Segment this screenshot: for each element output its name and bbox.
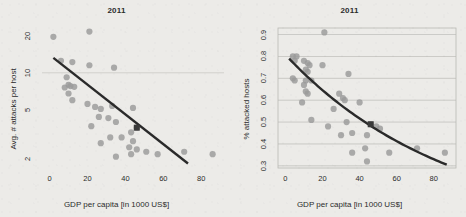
data-point (134, 146, 140, 152)
y-axis-tick-label: 0.5 (259, 117, 268, 127)
y-axis-tick-label: 0.4 (259, 139, 268, 149)
data-point (344, 119, 350, 125)
figure-two-panel-scatter: 2011 Avg. # attacks per host 25102002040… (0, 0, 466, 217)
data-point (364, 132, 370, 138)
data-point (84, 101, 90, 107)
data-point (349, 130, 355, 136)
data-point (105, 115, 111, 121)
panel-title-right: 2011 (233, 6, 466, 15)
data-point (362, 145, 368, 151)
highlighted-data-point (134, 125, 140, 131)
y-axis-tick-label: 0.3 (259, 161, 268, 171)
x-axis-tick-label: 40 (121, 174, 129, 183)
data-point (50, 34, 56, 40)
data-point (331, 106, 337, 112)
plot-area-right: 0.30.40.50.60.70.80.9020406080 (278, 28, 456, 168)
plot-area-left: 251020020406080 (42, 28, 224, 168)
data-point (98, 106, 104, 112)
data-point (96, 114, 102, 120)
data-point (128, 151, 134, 157)
data-point (64, 74, 70, 80)
data-point (130, 138, 136, 144)
data-point (65, 90, 71, 96)
data-point (143, 149, 149, 155)
data-point (301, 82, 307, 88)
data-point (155, 151, 161, 157)
data-point (126, 144, 132, 150)
data-point (308, 117, 314, 123)
y-axis-tick-label: 2 (23, 157, 32, 161)
y-axis-label-left: Avg. # attacks per host (9, 68, 18, 149)
y-axis-tick-label: 0.9 (259, 29, 268, 39)
data-point (319, 62, 325, 68)
data-point (356, 99, 362, 105)
data-point (299, 99, 305, 105)
data-point (113, 154, 119, 160)
y-axis-tick-label: 20 (23, 31, 32, 39)
data-point (69, 59, 75, 65)
x-axis-label-right: GDP per capita [in 1000 US$] (233, 200, 466, 209)
x-axis-tick-label: 80 (197, 174, 205, 183)
x-axis-tick-label: 60 (392, 174, 400, 183)
panel-percent-attacked-hosts: 2011 % attacked hosts 0.30.40.50.60.70.8… (233, 0, 466, 217)
x-axis-tick-label: 20 (83, 174, 91, 183)
data-point (442, 150, 448, 156)
data-point (292, 77, 298, 83)
data-point (107, 134, 113, 140)
y-axis-tick-label: 0.8 (259, 51, 268, 61)
x-axis-tick-label: 20 (318, 174, 326, 183)
y-axis-label-right: % attacked hosts (242, 78, 251, 139)
data-point (71, 84, 77, 90)
data-point (338, 132, 344, 138)
data-point (342, 97, 348, 103)
data-point (86, 62, 92, 68)
data-point (86, 29, 92, 35)
y-axis-tick-label: 0.7 (259, 73, 268, 83)
data-point (210, 151, 216, 157)
x-axis-tick-label: 40 (355, 174, 363, 183)
data-point (88, 123, 94, 129)
data-point (325, 123, 331, 129)
panel-title-left: 2011 (0, 6, 233, 15)
data-point (113, 119, 119, 125)
data-point (364, 158, 370, 164)
data-point (98, 140, 104, 146)
x-axis-label-left: GDP per capita [in 1000 US$] (0, 200, 233, 209)
trend-line (53, 58, 188, 164)
y-axis-tick-label: 5 (23, 108, 32, 112)
data-point (130, 105, 136, 111)
data-point (345, 71, 351, 77)
data-point (69, 97, 75, 103)
scatter-svg--attacked-hosts (278, 28, 456, 168)
x-axis-tick-label: 0 (47, 174, 51, 183)
data-point (349, 150, 355, 156)
data-point (181, 149, 187, 155)
data-point (62, 84, 68, 90)
data-point (386, 150, 392, 156)
data-point (92, 104, 98, 110)
y-axis-tick-label: 10 (23, 69, 32, 77)
y-axis-tick-label: 0.6 (259, 95, 268, 105)
panel-avg-attacks-per-host: 2011 Avg. # attacks per host 25102002040… (0, 0, 233, 217)
data-point (305, 91, 311, 97)
x-axis-tick-label: 60 (159, 174, 167, 183)
scatter-svg-avg-attacks-per-host (42, 28, 224, 168)
data-point (111, 65, 117, 71)
data-point (119, 134, 125, 140)
data-point (321, 29, 327, 35)
x-axis-tick-label: 80 (430, 174, 438, 183)
x-axis-tick-label: 0 (283, 174, 287, 183)
highlighted-data-point (368, 121, 374, 127)
data-point (128, 129, 134, 135)
